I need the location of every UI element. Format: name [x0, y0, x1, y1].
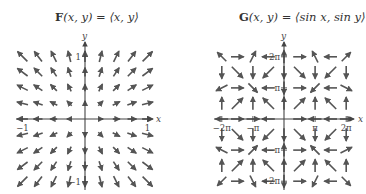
field-arrow	[217, 52, 226, 61]
field-arrow	[311, 146, 320, 155]
field-arrow	[127, 102, 136, 105]
x-tick-label: 1	[145, 123, 150, 133]
field-arrow	[263, 129, 274, 140]
field-arrow	[51, 176, 56, 187]
field-arrow	[98, 132, 103, 137]
field-arrow	[113, 162, 119, 171]
field-arrow	[34, 51, 42, 61]
field-arrow	[142, 85, 153, 90]
field-arrow	[99, 161, 102, 170]
field-arrow	[232, 160, 243, 171]
field-arrow	[51, 147, 57, 153]
field-arrow	[325, 67, 336, 78]
y-axis-label: y	[81, 31, 88, 41]
field-arrow	[127, 133, 136, 136]
field-arrow	[67, 101, 72, 106]
plot-f: xy−111−1	[16, 31, 161, 190]
field-arrow	[17, 85, 28, 90]
field-arrow	[113, 68, 119, 77]
field-arrow	[250, 51, 256, 62]
field-arrow	[51, 68, 57, 77]
y-axis-label: y	[280, 31, 287, 41]
field-arrow	[99, 51, 102, 62]
x-axis-label: x	[358, 114, 363, 124]
field-arrow	[99, 147, 103, 154]
x-axis-label: x	[156, 114, 161, 124]
field-arrow	[113, 133, 120, 137]
field-arrow	[17, 148, 28, 153]
field-arrow	[34, 147, 43, 153]
field-arrow	[217, 177, 226, 186]
field-arrow	[99, 68, 102, 77]
field-arrow	[113, 85, 119, 91]
field-arrow	[142, 162, 152, 170]
field-arrow	[325, 98, 336, 109]
field-arrow	[17, 133, 28, 136]
field-arrow	[50, 102, 57, 106]
field-arrow	[34, 68, 42, 76]
field-arrow	[50, 133, 57, 137]
field-arrow	[34, 133, 43, 136]
field-arrow	[312, 51, 318, 62]
field-arrow	[325, 160, 336, 171]
field-arrow	[263, 67, 274, 78]
field-arrow	[216, 85, 227, 91]
field-arrow	[216, 147, 227, 153]
y-tick-label: −π	[267, 145, 280, 155]
field-arrow	[51, 162, 57, 171]
field-arrow	[34, 162, 42, 170]
field-arrow	[128, 176, 136, 186]
field-arrow	[143, 52, 153, 62]
field-arrow	[68, 68, 71, 77]
field-arrow	[18, 177, 28, 187]
field-arrow	[142, 68, 152, 76]
y-tick-label: 2π	[269, 52, 280, 62]
field-arrow	[114, 51, 119, 62]
field-arrow	[341, 85, 352, 91]
field-arrow	[114, 176, 119, 187]
y-tick-label: π	[274, 83, 280, 93]
field-arrow	[113, 147, 119, 153]
field-arrow	[250, 176, 256, 187]
field-arrow	[294, 98, 305, 109]
field-arrow	[68, 161, 71, 170]
field-arrow	[67, 132, 72, 137]
field-arrow	[34, 85, 43, 91]
field-arrow	[98, 101, 103, 106]
field-arrow	[263, 160, 274, 171]
x-tick-label: 2π	[341, 123, 352, 133]
field-arrow	[294, 67, 305, 78]
y-tick-label: −1	[68, 177, 81, 187]
field-arrow	[113, 102, 120, 106]
field-arrow	[248, 83, 257, 92]
field-arrow	[341, 147, 352, 153]
y-tick-label: −2π	[262, 176, 281, 186]
field-arrow	[128, 51, 136, 61]
field-arrow	[18, 52, 28, 62]
field-arrow	[325, 129, 336, 140]
field-arrow	[342, 177, 351, 186]
field-arrow	[34, 176, 42, 186]
field-arrow	[128, 162, 136, 170]
x-tick-label: −1	[16, 123, 29, 133]
field-arrow	[143, 177, 153, 187]
field-arrow	[51, 51, 56, 62]
field-arrow	[99, 84, 103, 91]
x-tick-label: −2π	[213, 123, 232, 133]
field-arrow	[232, 67, 243, 78]
field-arrow	[311, 83, 320, 92]
field-arrow	[68, 84, 72, 91]
field-arrow	[128, 68, 136, 76]
field-arrow	[312, 176, 318, 187]
field-arrow	[142, 148, 153, 153]
field-arrow	[51, 85, 57, 91]
field-arrow	[17, 68, 27, 76]
field-arrow	[17, 102, 28, 105]
field-arrow	[142, 102, 153, 105]
field-arrow	[34, 102, 43, 105]
field-arrow	[68, 51, 71, 62]
field-arrow	[248, 146, 257, 155]
field-arrow	[68, 147, 72, 154]
x-tick-label: π	[312, 123, 318, 133]
